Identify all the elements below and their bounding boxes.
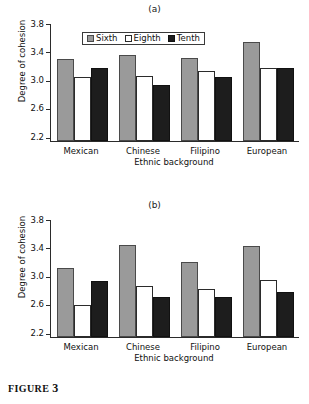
panel-a-label: (a) bbox=[0, 4, 309, 14]
y-tick-label-b-3: 2.6 bbox=[14, 300, 44, 309]
legend-item-tenth: Tenth bbox=[168, 34, 200, 43]
legend-item-sixth: Sixth bbox=[87, 34, 118, 43]
legend-label-sixth: Sixth bbox=[96, 34, 118, 43]
panel-b: (b) Degree of cohesion 3.8 3.4 3.0 2.6 2… bbox=[0, 196, 309, 382]
x-tick-labels-a: Mexican Chinese Filipino European bbox=[50, 146, 298, 156]
bar-a-european-tenth bbox=[277, 68, 294, 141]
bar-b-european-eighth bbox=[260, 280, 277, 337]
bar-b-chinese-eighth bbox=[136, 286, 153, 337]
y-tick-label-b-1: 3.4 bbox=[14, 244, 44, 253]
bar-b-european-tenth bbox=[277, 292, 294, 337]
bar-a-european-eighth bbox=[260, 68, 277, 141]
x-tick-label-b-2: Filipino bbox=[176, 342, 233, 352]
bar-group-b-1 bbox=[115, 220, 172, 337]
bar-group-b-2 bbox=[177, 220, 234, 337]
bar-group-b-0 bbox=[53, 220, 110, 337]
bar-b-chinese-tenth bbox=[153, 297, 170, 337]
x-axis-label-a: Ethnic background bbox=[50, 157, 298, 167]
figure-caption-number: 3 bbox=[52, 381, 58, 395]
y-tick-label-a-3: 2.6 bbox=[14, 104, 44, 113]
x-tick-label-a-1: Chinese bbox=[114, 146, 171, 156]
y-tick-label-b-4: 2.2 bbox=[14, 329, 44, 338]
bar-b-chinese-sixth bbox=[119, 245, 136, 337]
y-tick-label-a-0: 3.8 bbox=[14, 20, 44, 29]
bar-b-mexican-eighth bbox=[74, 305, 91, 337]
bar-group-a-3 bbox=[239, 24, 296, 141]
bar-a-chinese-sixth bbox=[119, 55, 136, 141]
bar-b-filipino-tenth bbox=[215, 297, 232, 337]
y-tick-label-a-1: 3.4 bbox=[14, 48, 44, 57]
panel-b-label: (b) bbox=[0, 200, 309, 210]
bar-b-european-sixth bbox=[243, 246, 260, 337]
x-tick-labels-b: Mexican Chinese Filipino European bbox=[50, 342, 298, 352]
legend-swatch-sixth-icon bbox=[87, 35, 94, 42]
figure-caption: FIGURE3 bbox=[8, 381, 59, 396]
bar-a-mexican-eighth bbox=[74, 77, 91, 141]
plot-area-b: Degree of cohesion 3.8 3.4 3.0 2.6 2.2 bbox=[0, 214, 309, 364]
y-tick-label-b-2: 3.0 bbox=[14, 272, 44, 281]
bar-a-filipino-eighth bbox=[198, 71, 215, 141]
bar-groups-b bbox=[51, 220, 299, 337]
bar-b-mexican-sixth bbox=[57, 268, 74, 337]
panel-a: (a) Degree of cohesion 3.8 3.4 3.0 2.6 2… bbox=[0, 0, 309, 186]
x-tick-label-b-1: Chinese bbox=[114, 342, 171, 352]
legend-swatch-eighth-icon bbox=[125, 35, 132, 42]
x-tick-label-b-3: European bbox=[238, 342, 295, 352]
legend-swatch-tenth-icon bbox=[168, 35, 175, 42]
bar-b-mexican-tenth bbox=[91, 281, 108, 337]
legend-label-eighth: Eighth bbox=[134, 34, 161, 43]
x-axis-label-b: Ethnic background bbox=[50, 353, 298, 363]
bar-a-filipino-sixth bbox=[181, 58, 198, 141]
y-tick-label-b-0: 3.8 bbox=[14, 216, 44, 225]
y-tick-label-a-2: 3.0 bbox=[14, 76, 44, 85]
bar-b-filipino-sixth bbox=[181, 262, 198, 337]
bar-a-mexican-tenth bbox=[91, 68, 108, 141]
figure-caption-label: FIGURE bbox=[8, 383, 49, 394]
legend-label-tenth: Tenth bbox=[177, 34, 200, 43]
bar-group-b-3 bbox=[239, 220, 296, 337]
bar-a-chinese-eighth bbox=[136, 76, 153, 141]
bar-a-mexican-sixth bbox=[57, 59, 74, 141]
bar-b-filipino-eighth bbox=[198, 289, 215, 337]
y-tick-label-a-4: 2.2 bbox=[14, 133, 44, 142]
x-tick-label-a-2: Filipino bbox=[176, 146, 233, 156]
legend: Sixth Eighth Tenth bbox=[82, 32, 205, 45]
bar-a-filipino-tenth bbox=[215, 77, 232, 141]
x-tick-label-b-0: Mexican bbox=[52, 342, 109, 352]
x-tick-label-a-0: Mexican bbox=[52, 146, 109, 156]
legend-item-eighth: Eighth bbox=[125, 34, 161, 43]
bar-a-european-sixth bbox=[243, 42, 260, 141]
axes-b bbox=[50, 220, 299, 338]
plot-area-a: Degree of cohesion 3.8 3.4 3.0 2.6 2.2 S… bbox=[0, 18, 309, 168]
x-tick-label-a-3: European bbox=[238, 146, 295, 156]
bar-a-chinese-tenth bbox=[153, 85, 170, 141]
figure-3: (a) Degree of cohesion 3.8 3.4 3.0 2.6 2… bbox=[0, 0, 309, 404]
